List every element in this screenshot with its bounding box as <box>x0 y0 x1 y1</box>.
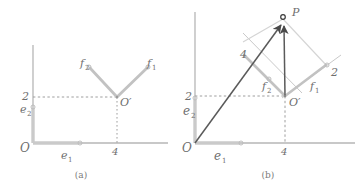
panel-b-origin-label: O <box>182 141 192 155</box>
panel-b-y-tick-label: 2 <box>184 90 192 103</box>
panel-b-arrow-Oprime-to-P <box>284 26 285 96</box>
svg-text:e: e <box>214 149 221 163</box>
svg-text:1: 1 <box>152 64 156 72</box>
svg-text:e: e <box>20 103 27 116</box>
svg-text:e: e <box>183 104 190 118</box>
panel-b-point-P-marker <box>281 15 286 20</box>
svg-text:O′: O′ <box>289 96 301 109</box>
panel-a: 2 4 O e 2 e 1 f 1 f 2 O′ (a) <box>20 45 168 180</box>
figure-container: 2 4 O e 2 e 1 f 1 f 2 O′ (a) <box>0 0 362 188</box>
panel-a-caption: (a) <box>75 170 87 180</box>
svg-text:2: 2 <box>267 87 271 95</box>
panel-b-arrow-O-to-P <box>195 25 281 143</box>
panel-b-f1-coordinate-label: 2 <box>330 66 338 79</box>
svg-text:1: 1 <box>68 156 72 164</box>
svg-text:2: 2 <box>27 110 31 118</box>
svg-text:2: 2 <box>191 112 195 120</box>
panel-a-label-f2: f 2 <box>79 57 89 72</box>
panel-b-label-e1: e 1 <box>214 149 226 165</box>
panel-b-frame-origin-label: O′ <box>289 96 301 109</box>
figure-svg: 2 4 O e 2 e 1 f 1 f 2 O′ (a) <box>0 0 362 188</box>
panel-b-point-label: P <box>291 6 300 19</box>
panel-a-origin-label: O <box>20 141 30 155</box>
panel-b-label-f1: f 1 <box>309 80 319 95</box>
panel-a-vector-f1 <box>117 68 147 97</box>
panel-a-x-tick-label: 4 <box>111 146 118 157</box>
panel-b-vector-f1 <box>285 65 326 96</box>
panel-a-label-e2: e 2 <box>20 103 31 118</box>
svg-text:2: 2 <box>85 64 89 72</box>
panel-a-label-f1: f 1 <box>146 57 156 72</box>
panel-a-y-tick-label: 2 <box>21 90 29 103</box>
panel-b-f2-coordinate-label: 4 <box>239 48 247 61</box>
panel-b-construction-edge-right <box>283 19 327 66</box>
panel-a-frame-origin-marker <box>116 96 118 98</box>
panel-b-caption: (b) <box>262 170 275 180</box>
svg-text:1: 1 <box>315 87 319 95</box>
svg-text:e: e <box>61 149 68 162</box>
panel-a-frame-origin-label: O′ <box>120 96 132 109</box>
svg-text:O′: O′ <box>120 96 132 109</box>
panel-b-x-tick-label: 4 <box>280 146 287 157</box>
panel-a-label-e1: e 1 <box>61 149 72 164</box>
panel-b-frame-origin-marker <box>284 95 286 97</box>
svg-text:1: 1 <box>222 157 226 165</box>
panel-a-vector-f2 <box>90 68 117 97</box>
panel-b: P 2 4 O e 2 e 1 f 2 f 1 4 2 <box>182 6 355 180</box>
